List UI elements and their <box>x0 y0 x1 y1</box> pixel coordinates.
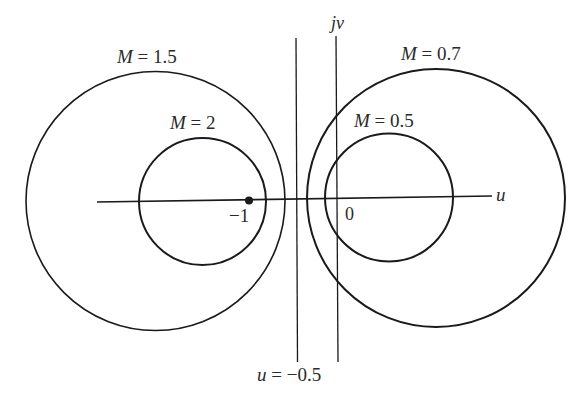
label-m-0.5: M = 0.5 <box>353 110 414 131</box>
origin-label: 0 <box>345 204 354 224</box>
vertical-line-u-minus-0.5 <box>296 38 298 362</box>
label-m-2: M = 2 <box>169 112 216 133</box>
critical-point-label: −1 <box>229 205 249 226</box>
label-m-1.5: M = 1.5 <box>116 46 177 67</box>
critical-point-dot <box>245 197 253 205</box>
u-axis-label: u <box>496 184 506 205</box>
u-axis <box>97 196 492 202</box>
jv-axis-label: jv <box>329 13 344 33</box>
vertical-line-label: u = −0.5 <box>257 364 321 385</box>
label-m-0.7: M = 0.7 <box>400 43 461 64</box>
m-circles-diagram: M = 1.5 M = 2 M = 0.7 M = 0.5 jv u 0 −1 … <box>0 0 582 405</box>
